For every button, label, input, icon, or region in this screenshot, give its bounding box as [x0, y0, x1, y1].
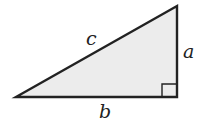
- label-vertical-leg: a: [183, 40, 194, 62]
- label-hypotenuse: c: [86, 27, 97, 49]
- label-horizontal-leg: b: [99, 100, 111, 122]
- triangle: [16, 6, 177, 97]
- right-triangle-diagram: c a b: [0, 0, 211, 126]
